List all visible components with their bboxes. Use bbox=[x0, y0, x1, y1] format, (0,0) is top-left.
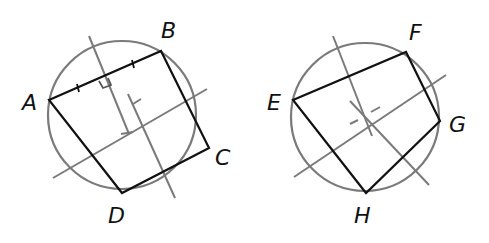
vertex-label-f: F bbox=[409, 20, 422, 45]
figure-right-efgh: E F G H bbox=[267, 20, 466, 228]
congruence-tick-mark bbox=[132, 60, 134, 68]
congruence-tick-mark bbox=[77, 84, 79, 92]
vertex-label-h: H bbox=[354, 203, 371, 228]
construction-tick bbox=[133, 99, 141, 104]
vertex-label-d: D bbox=[108, 203, 125, 228]
construction-tick bbox=[350, 120, 358, 124]
vertex-label-b: B bbox=[161, 18, 176, 43]
figure-left-abcd: A B C D bbox=[20, 18, 231, 228]
right-angle-mark-ab bbox=[99, 78, 111, 88]
vertex-label-a: A bbox=[20, 90, 37, 115]
perpendicular-bisector-ef bbox=[333, 36, 372, 136]
vertex-label-g: G bbox=[449, 112, 466, 137]
diagram-canvas: A B C D E F G H bbox=[0, 0, 489, 243]
vertex-label-e: E bbox=[267, 90, 281, 115]
vertex-label-c: C bbox=[215, 145, 231, 170]
construction-tick bbox=[371, 107, 380, 112]
